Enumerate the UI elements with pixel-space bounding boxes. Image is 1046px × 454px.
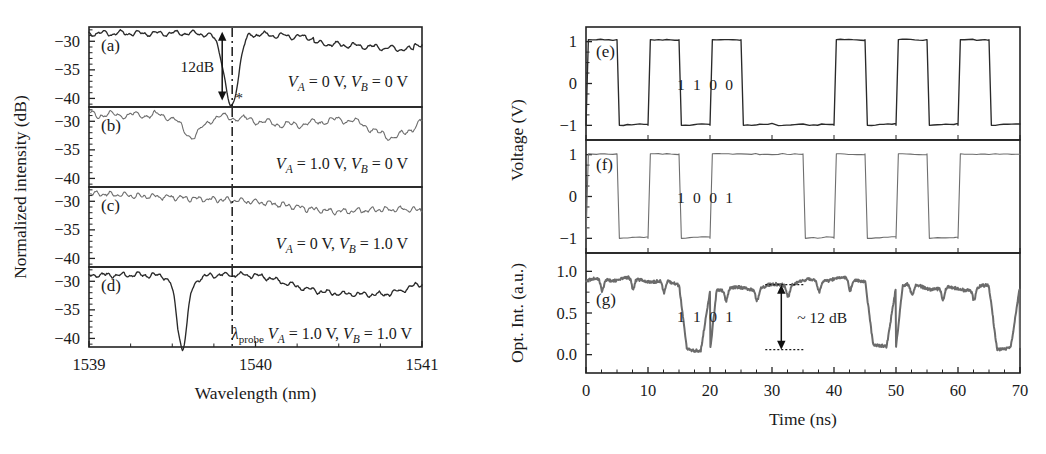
y-axis-title: Normalized intensity (dB)	[10, 95, 30, 279]
condition-label-0: VA = 0 V, VB = 0 V	[288, 73, 409, 93]
right-y-axis-titles: Voltage (V)Opt. Int. (a.u.)	[507, 99, 527, 363]
y-tick-label: −1	[559, 229, 577, 248]
y-tick-label: −40	[54, 329, 80, 348]
bit-label: 1	[677, 189, 685, 206]
bit-label: 1	[725, 189, 733, 206]
x-tick-label: 1539	[73, 355, 106, 374]
bit-label: 0	[709, 189, 717, 206]
y-tick-label: −35	[54, 140, 80, 159]
panel-letter-1: (b)	[101, 116, 121, 135]
db-arrow-head-down	[777, 341, 785, 350]
bit-label: 0	[693, 189, 701, 206]
x-tick-label: 10	[640, 381, 657, 400]
dip-arrow-head-down	[218, 92, 226, 101]
left-x-axis: 153915401541Wavelength (nm)	[73, 341, 439, 403]
dip-arrow-head-up	[218, 32, 226, 41]
bit-label: 1	[725, 308, 733, 325]
x-tick-label: 70	[1012, 381, 1029, 400]
x-tick-label: 30	[764, 381, 781, 400]
right-subpanel-f: 10−1(f)1001	[559, 140, 1020, 253]
y-tick-label: −40	[54, 249, 80, 268]
y-tick-label: −40	[54, 169, 80, 188]
y-tick-label: 0.0	[556, 345, 577, 364]
y-tick-label: −35	[54, 220, 80, 239]
spectrum-trace	[89, 110, 422, 140]
x-tick-label: 50	[888, 381, 905, 400]
condition-label-3: λprobe VA = 1.0 V, VB = 1.0 V	[231, 325, 413, 345]
y-tick-label: −35	[54, 60, 80, 79]
y-tick-label: −1	[559, 116, 577, 135]
y-tick-label: 1.0	[556, 262, 577, 281]
x-axis-title: Time (ns)	[769, 409, 837, 429]
y-tick-label: −40	[54, 89, 80, 108]
condition-label-2: VA = 0 V, VB = 1.0 V	[276, 235, 409, 255]
dip-annotation-group: 12dB*	[181, 32, 244, 107]
voltage-trace	[586, 39, 1020, 125]
bit-label: 0	[709, 76, 717, 93]
right-panel-group: 10−1(e)110010−1(f)10011.00.50.0(g)110101…	[507, 27, 1028, 429]
left-subpanel-b: −30−35−40(b)VA = 1.0 V, VB = 0 V	[54, 107, 422, 188]
x-axis-title: Wavelength (nm)	[195, 383, 317, 403]
x-tick-label: 60	[950, 381, 967, 400]
y-tick-label: 1	[569, 145, 577, 164]
y-tick-label: 0	[569, 74, 577, 93]
subpanel-frame	[89, 27, 422, 107]
panel-letter-2: (c)	[101, 196, 120, 215]
spectra-and-timetrace-figure: −30−35−40(a)VA = 0 V, VB = 0 V−30−35−40(…	[0, 0, 1046, 454]
panel-letter-3: (d)	[101, 276, 121, 295]
bit-label: 1	[693, 308, 701, 325]
asterisk-marker: *	[235, 89, 243, 106]
bit-label: 0	[725, 76, 733, 93]
bit-label: 0	[709, 308, 717, 325]
panel-letter-g: (g)	[596, 290, 616, 309]
y-axis-title-optical: Opt. Int. (a.u.)	[507, 263, 527, 363]
right-subpanel-g: 1.00.50.0(g)1101	[556, 253, 1020, 373]
y-tick-label: 0.5	[556, 304, 577, 323]
left-subpanel-c: −30−35−40(c)VA = 0 V, VB = 1.0 V	[54, 187, 422, 268]
bit-label: 1	[693, 76, 701, 93]
spectrum-trace	[89, 191, 422, 215]
y-tick-label: 0	[569, 187, 577, 206]
db-annotation-group: ~ 12 dB	[765, 285, 847, 350]
right-subpanel-e: 10−1(e)1100	[559, 27, 1020, 140]
y-tick-label: 1	[569, 32, 577, 51]
bit-label: 1	[677, 76, 685, 93]
panel-letter-f: (f)	[596, 155, 613, 174]
dip-annotation-label: 12dB	[181, 58, 215, 75]
db-annotation-label: ~ 12 dB	[797, 309, 847, 326]
x-tick-label: 0	[582, 381, 590, 400]
x-tick-label: 40	[826, 381, 843, 400]
figure-root: −30−35−40(a)VA = 0 V, VB = 0 V−30−35−40(…	[0, 0, 1046, 454]
bit-label: 1	[677, 308, 685, 325]
left-panel-group: −30−35−40(a)VA = 0 V, VB = 0 V−30−35−40(…	[10, 27, 439, 403]
y-tick-label: −35	[54, 300, 80, 319]
panel-letter-e: (e)	[596, 42, 615, 61]
left-y-axis-title-group: Normalized intensity (dB)	[10, 95, 30, 279]
x-tick-label: 1540	[239, 355, 272, 374]
panel-letter-0: (a)	[101, 36, 120, 55]
left-subpanel-d: −30−35−40(d)λprobe VA = 1.0 V, VB = 1.0 …	[54, 267, 422, 351]
condition-label-1: VA = 1.0 V, VB = 0 V	[276, 155, 409, 175]
spectrum-trace	[89, 30, 422, 106]
x-tick-label: 1541	[406, 355, 439, 374]
y-axis-title-voltage: Voltage (V)	[507, 99, 527, 181]
x-tick-label: 20	[702, 381, 719, 400]
subpanel-frame	[89, 107, 422, 187]
subpanel-frame	[586, 27, 1020, 140]
y-tick-label: −30	[54, 112, 80, 131]
y-tick-label: −30	[54, 192, 80, 211]
voltage-trace	[586, 153, 1020, 238]
y-tick-label: −30	[54, 272, 80, 291]
y-tick-label: −30	[54, 32, 80, 51]
